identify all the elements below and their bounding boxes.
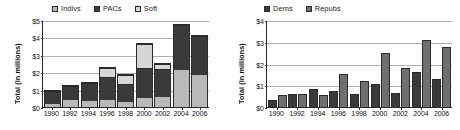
bar-repubs-2002 — [401, 68, 410, 107]
bar-pair-2004 — [412, 40, 431, 107]
bar-dems-1994 — [309, 89, 318, 107]
legend-swatch-soft — [135, 6, 141, 12]
x-axis-tick-label: 2006 — [192, 110, 207, 117]
bar-slot — [329, 21, 348, 107]
x-axis-tick-label: 2006 — [434, 110, 449, 117]
x-axis-tick-label: 2000 — [136, 110, 151, 117]
bar-repubs-1998 — [360, 81, 369, 107]
y-axis-tick-mark — [41, 108, 43, 109]
bar-repubs-2000 — [381, 53, 390, 107]
x-axis-tick-mark — [318, 107, 319, 110]
bar-slot — [62, 21, 79, 107]
x-axis-tick-mark — [297, 107, 298, 110]
x-axis-tick-label: 2004 — [413, 110, 428, 117]
legend-label-repubs: Repubs — [315, 4, 341, 13]
bar-repubs-2004 — [422, 40, 431, 107]
legend-label-indivs: Indivs — [61, 4, 81, 13]
bar-slot — [309, 21, 328, 107]
x-axis-tick-mark — [89, 107, 90, 110]
x-axis-tick-label: 2004 — [174, 110, 189, 117]
legend-entry-dems: Dems — [264, 4, 293, 13]
stacked-bar-1994 — [81, 82, 98, 107]
x-axis-tick-mark — [182, 107, 183, 110]
legend-label-soft: Soft — [144, 4, 158, 13]
legend-swatch-repubs — [306, 6, 312, 12]
bar-pair-1992 — [288, 94, 307, 107]
bar-segment-pacs-2000 — [137, 68, 152, 98]
legend-swatch-dems — [264, 6, 270, 12]
bar-group-left — [43, 21, 209, 107]
bar-slot — [350, 21, 369, 107]
stacked-bar-2006 — [191, 35, 208, 107]
bar-dems-2006 — [432, 79, 441, 107]
legend-label-pacs: PACs — [103, 4, 122, 13]
legend-label-dems: Dems — [273, 4, 293, 13]
chart-panel-contributions-by-party: Dems Repubs Total (in millions) $0$1$2$3… — [228, 0, 460, 130]
x-axis-tick-mark — [339, 107, 340, 110]
bar-slot — [81, 21, 98, 107]
y-axis-title-left: Total (in millions) — [13, 43, 22, 104]
x-axis-tick-mark — [52, 107, 53, 110]
legend-entry-repubs: Repubs — [306, 4, 341, 13]
bar-segment-soft-1998 — [118, 75, 133, 84]
bar-pair-2002 — [391, 68, 410, 107]
x-axis-tick-mark — [70, 107, 71, 110]
bar-pair-1996 — [329, 74, 348, 107]
bar-segment-indivs-2002 — [155, 97, 170, 107]
x-axis-tick-mark — [163, 107, 164, 110]
bar-slot — [117, 21, 134, 107]
bar-segment-pacs-2002 — [155, 69, 170, 97]
bar-segment-soft-2000 — [137, 44, 152, 68]
bar-dems-2002 — [391, 93, 400, 107]
legend-entry-pacs: PACs — [94, 4, 122, 13]
chart-panel-contributions-by-source: Indivs PACs Soft Total (in millions) $0$… — [0, 0, 230, 130]
x-axis-tick-label: 1996 — [331, 110, 346, 117]
bar-repubs-2006 — [442, 47, 451, 107]
bar-pair-1990 — [268, 95, 287, 107]
x-axis-tick-label: 1992 — [289, 110, 304, 117]
bar-segment-indivs-2000 — [137, 98, 152, 107]
legend-entry-soft: Soft — [135, 4, 158, 13]
x-axis-tick-mark — [126, 107, 127, 110]
x-axis-tick-mark — [401, 107, 402, 110]
x-axis-tick-label: 1994 — [81, 110, 96, 117]
bar-dems-2004 — [412, 72, 421, 107]
x-axis-tick-mark — [277, 107, 278, 110]
x-axis-tick-mark — [359, 107, 360, 110]
bar-slot — [136, 21, 153, 107]
bar-pair-1998 — [350, 81, 369, 107]
bar-dems-1998 — [350, 94, 359, 107]
bar-slot — [288, 21, 307, 107]
x-axis-tick-mark — [380, 107, 381, 110]
stacked-bar-2004 — [173, 24, 190, 107]
stacked-bar-2002 — [154, 63, 171, 107]
bar-slot — [44, 21, 61, 107]
bar-repubs-1994 — [319, 95, 328, 107]
bar-slot — [432, 21, 451, 107]
legend-entry-indivs: Indivs — [52, 4, 81, 13]
x-axis-tick-mark — [107, 107, 108, 110]
y-axis-title-right: Total (in millions) — [237, 43, 246, 104]
bar-segment-indivs-2004 — [174, 70, 189, 107]
bar-segment-pacs-1990 — [45, 91, 60, 104]
bar-segment-soft-1996 — [100, 68, 115, 78]
plot-area-right: $0$1$2$3$4 — [266, 21, 452, 108]
chart-legend-source: Indivs PACs Soft — [52, 4, 157, 13]
x-axis-tick-mark — [200, 107, 201, 110]
bar-slot — [173, 21, 190, 107]
stacked-bar-2000 — [136, 43, 153, 107]
bar-segment-indivs-1992 — [63, 100, 78, 107]
x-axis-tick-label: 2002 — [155, 110, 170, 117]
bar-repubs-1992 — [298, 94, 307, 107]
x-axis-tick-label: 1992 — [62, 110, 77, 117]
y-axis-tick-mark — [265, 108, 267, 109]
figure-container: Indivs PACs Soft Total (in millions) $0$… — [0, 0, 460, 130]
x-axis-tick-label: 1996 — [99, 110, 114, 117]
stacked-bar-1998 — [117, 74, 134, 107]
bar-segment-indivs-2006 — [192, 75, 207, 107]
bar-slot — [154, 21, 171, 107]
x-axis-ticks-left: 199019921994199619982000200220042006 — [42, 110, 209, 117]
x-axis-tick-label: 1990 — [269, 110, 284, 117]
legend-swatch-pacs — [94, 6, 100, 12]
bar-segment-pacs-2006 — [192, 36, 207, 76]
